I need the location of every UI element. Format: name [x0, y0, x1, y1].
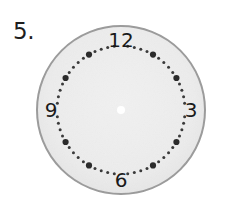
- hour-mark-dot-2: [173, 75, 179, 81]
- minute-mark-dot: [180, 89, 183, 92]
- minute-mark-dot: [57, 122, 60, 125]
- minute-mark-dot: [171, 146, 174, 149]
- minute-mark-dot: [93, 167, 96, 170]
- minute-mark-dot: [171, 71, 174, 74]
- minute-mark-dot: [162, 156, 165, 159]
- clock-face-diagram: 12369: [0, 0, 233, 224]
- minute-mark-dot: [133, 171, 136, 174]
- hour-numeral-6: 6: [115, 168, 128, 192]
- minute-mark-dot: [106, 171, 109, 174]
- minute-mark-dot: [82, 57, 85, 60]
- minute-mark-dot: [59, 89, 62, 92]
- minute-mark-dot: [178, 82, 181, 85]
- clock-center-hub: [117, 106, 125, 114]
- hour-numeral-9: 9: [45, 98, 58, 122]
- minute-mark-dot: [167, 151, 170, 154]
- minute-mark-dot: [162, 61, 165, 64]
- minute-mark-dot: [72, 66, 75, 69]
- minute-mark-dot: [100, 169, 103, 172]
- minute-mark-dot: [93, 50, 96, 53]
- minute-mark-dot: [59, 128, 62, 131]
- minute-mark-dot: [68, 146, 71, 149]
- minute-mark-dot: [139, 169, 142, 172]
- hour-mark-dot-11: [86, 51, 92, 57]
- minute-mark-dot: [182, 122, 185, 125]
- minute-mark-dot: [77, 156, 80, 159]
- hour-mark-dot-5: [150, 162, 156, 168]
- minute-mark-dot: [157, 57, 160, 60]
- minute-mark-dot: [180, 128, 183, 131]
- minute-mark-dot: [146, 167, 149, 170]
- minute-mark-dot: [139, 48, 142, 51]
- minute-mark-dot: [167, 66, 170, 69]
- worksheet-clock-figure: 5. 12369: [0, 0, 233, 224]
- hour-mark-dot-1: [150, 51, 156, 57]
- minute-mark-dot: [157, 160, 160, 163]
- hour-numeral-12: 12: [108, 28, 133, 52]
- minute-mark-dot: [61, 82, 64, 85]
- minute-mark-dot: [61, 135, 64, 138]
- minute-mark-dot: [146, 50, 149, 53]
- minute-mark-dot: [178, 135, 181, 138]
- minute-mark-dot: [100, 48, 103, 51]
- hour-mark-dot-4: [173, 139, 179, 145]
- minute-mark-dot: [77, 61, 80, 64]
- hour-numeral-3: 3: [185, 98, 198, 122]
- minute-mark-dot: [68, 71, 71, 74]
- hour-mark-dot-8: [62, 139, 68, 145]
- minute-mark-dot: [82, 160, 85, 163]
- hour-mark-dot-10: [62, 75, 68, 81]
- hour-mark-dot-7: [86, 162, 92, 168]
- minute-mark-dot: [72, 151, 75, 154]
